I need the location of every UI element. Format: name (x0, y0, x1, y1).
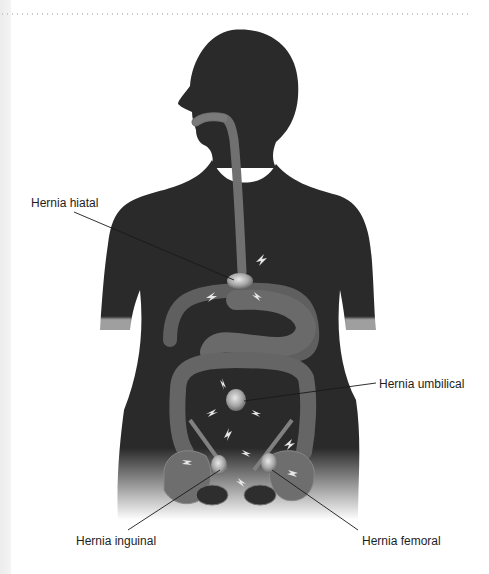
inguinal-hernia-bulge (211, 455, 227, 475)
label-hernia-inguinal: Hernia inguinal (76, 534, 156, 548)
label-hernia-femoral: Hernia femoral (362, 534, 441, 548)
label-hernia-umbilical: Hernia umbilical (379, 377, 464, 391)
femoral-hernia-bulge (261, 453, 277, 473)
umbilical-hernia-bulge (226, 389, 246, 411)
anatomy-illustration (0, 0, 489, 574)
label-hernia-hiatal: Hernia hiatal (31, 196, 98, 210)
hiatal-hernia-bulge (227, 273, 253, 289)
